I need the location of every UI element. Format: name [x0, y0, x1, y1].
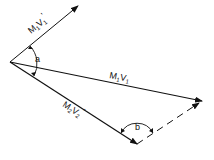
- vector-m1v1: [10, 62, 202, 101]
- vector-m1v1-dashed-completion: [137, 103, 199, 144]
- label-m2v2-prime: M2V2': [60, 96, 87, 121]
- svg-text:M2V2': M2V2': [60, 96, 87, 121]
- label-angle-a: a: [35, 54, 40, 64]
- label-angle-b: b: [135, 122, 140, 132]
- momentum-vector-diagram: M1V1' M1V1 M2V2' a b: [0, 0, 214, 160]
- vector-m1v1-prime: [10, 6, 78, 62]
